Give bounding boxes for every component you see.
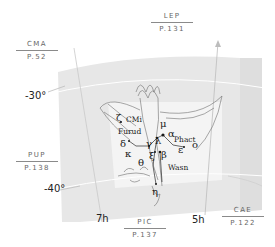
star-label-eta: η bbox=[152, 187, 158, 197]
neighbor-ref-cae[interactable]: CAE P.122 bbox=[222, 206, 264, 227]
page-ref: P.137 bbox=[124, 229, 166, 239]
star-name-furud: Furud bbox=[118, 128, 141, 136]
declination-label-minus30: -30° bbox=[25, 90, 46, 101]
neighbor-ref-pic[interactable]: PIC P.137 bbox=[124, 218, 166, 239]
neighbor-ref-cma[interactable]: CMA P.52 bbox=[16, 40, 58, 61]
neighbor-abbr: PUP bbox=[16, 151, 58, 161]
ra-label-7h: 7h bbox=[96, 213, 109, 224]
star-label-kappa: κ bbox=[125, 149, 131, 159]
star-name-phact: Phact bbox=[174, 136, 196, 144]
north-arrow-icon bbox=[215, 40, 221, 47]
star-name-wasn: Wasn bbox=[168, 164, 188, 172]
neighbor-abbr: PIC bbox=[124, 218, 166, 228]
neighbor-ref-pup[interactable]: PUP P.138 bbox=[16, 151, 58, 172]
neighbor-ref-lep[interactable]: LEP P.131 bbox=[151, 12, 193, 33]
page-ref: P.131 bbox=[151, 23, 193, 33]
page-ref: P.138 bbox=[16, 162, 58, 172]
sky-panel-edge bbox=[240, 58, 262, 212]
star-label-zeta: ζ bbox=[116, 113, 121, 123]
declination-label-minus40: -40° bbox=[44, 183, 65, 194]
star-name-cmi: CMi bbox=[126, 116, 142, 124]
neighbor-abbr: CMA bbox=[16, 40, 58, 50]
page-ref: P.52 bbox=[16, 51, 58, 61]
star-epsilon bbox=[183, 146, 185, 148]
star-label-theta: θ bbox=[138, 158, 144, 168]
neighbor-abbr: LEP bbox=[151, 12, 193, 22]
star-label-mu: μ bbox=[160, 119, 167, 129]
star-label-beta: β bbox=[161, 150, 167, 160]
star-label-epsilon: ε bbox=[178, 145, 183, 155]
star-alpha bbox=[161, 133, 164, 136]
page-ref: P.122 bbox=[222, 217, 264, 227]
star-label-lambda: λ bbox=[155, 136, 161, 146]
star-label-xi: ξ bbox=[149, 151, 155, 161]
star-chart: CMA P.52 LEP P.131 PUP P.138 PIC P.137 C… bbox=[0, 0, 275, 247]
neighbor-abbr: CAE bbox=[222, 206, 264, 216]
star-delta bbox=[128, 140, 130, 142]
ra-label-5h: 5h bbox=[192, 214, 205, 225]
star-label-gamma: γ bbox=[146, 139, 152, 149]
star-eta bbox=[155, 183, 157, 185]
